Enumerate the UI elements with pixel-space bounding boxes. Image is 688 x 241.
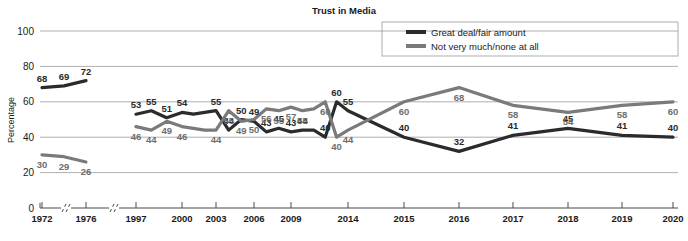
data-label-1-2007: 56: [261, 113, 272, 124]
data-label-0-1974: 69: [59, 71, 70, 82]
x-tick-label-1976: 1976: [75, 213, 96, 224]
data-label-1-2015: 60: [399, 106, 410, 117]
x-tick-label-2014: 2014: [337, 213, 359, 224]
data-label-1-1997: 46: [131, 131, 142, 142]
data-label-0-2012: 40: [320, 122, 331, 133]
x-tick-label-2018: 2018: [557, 213, 578, 224]
x-tick-label-2017: 2017: [502, 213, 523, 224]
data-label-1-2003: 44: [211, 134, 222, 145]
data-label-0-2006: 49: [249, 106, 260, 117]
data-label-1-1999: 49: [161, 125, 172, 136]
data-label-1-2020: 60: [668, 106, 679, 117]
y-tick-label-100: 100: [17, 26, 34, 37]
y-axis-label: Percentage: [6, 97, 16, 143]
data-label-0-2014: 55: [343, 96, 354, 107]
data-label-1-2004: 55: [223, 115, 234, 126]
data-label-1-2008: 55: [273, 115, 284, 126]
x-tick-label-2000: 2000: [171, 213, 192, 224]
data-label-1-2006: 50: [249, 124, 260, 135]
data-label-1-1998: 44: [146, 134, 157, 145]
x-tick-label-2006: 2006: [243, 213, 264, 224]
data-label-0-1999: 51: [161, 103, 172, 114]
x-tick-label-2020: 2020: [662, 213, 683, 224]
data-label-1-2000: 46: [177, 131, 188, 142]
data-label-1-2012: 60: [320, 106, 331, 117]
data-label-0-2019: 41: [617, 120, 628, 131]
data-label-0-2013: 60: [331, 87, 342, 98]
data-label-0-2016: 32: [454, 136, 465, 147]
data-label-1-2019: 58: [617, 109, 628, 120]
data-label-1-1976: 26: [81, 166, 92, 177]
y-tick-label-0: 0: [28, 203, 34, 214]
data-label-0-1976: 72: [81, 66, 92, 77]
y-tick-label-60: 60: [23, 96, 35, 107]
x-tick-label-2016: 2016: [448, 213, 469, 224]
data-label-1-2009: 57: [286, 111, 297, 122]
data-label-1-2010: 55: [297, 115, 308, 126]
chart-container: Trust in Media 020406080100 Percentage 1…: [0, 0, 688, 241]
legend-label-1: Not very much/none at all: [431, 41, 539, 52]
data-label-0-1972: 68: [37, 73, 48, 84]
x-tick-label-2009: 2009: [280, 213, 301, 224]
data-label-1-2016: 68: [454, 92, 465, 103]
data-label-0-2017: 41: [508, 120, 519, 131]
x-tick-label-2003: 2003: [205, 213, 226, 224]
data-label-1-2018: 54: [563, 116, 574, 127]
trust-in-media-line-chart: Trust in Media 020406080100 Percentage 1…: [0, 0, 688, 241]
data-label-1-1974: 29: [59, 161, 70, 172]
chart-background: [0, 0, 688, 241]
y-tick-label-40: 40: [23, 132, 35, 143]
data-label-1-2013: 40: [331, 141, 342, 152]
y-tick-label-80: 80: [23, 61, 35, 72]
legend-label-0: Great deal/fair amount: [431, 27, 526, 38]
data-label-0-2015: 40: [399, 122, 410, 133]
data-label-0-2003: 55: [211, 96, 222, 107]
chart-title: Trust in Media: [312, 5, 377, 16]
data-label-1-2005: 49: [236, 125, 247, 136]
data-label-1-1972: 30: [37, 159, 48, 170]
data-label-1-2017: 58: [508, 109, 519, 120]
data-label-0-2000: 54: [177, 97, 188, 108]
data-label-1-2014: 44: [343, 134, 354, 145]
x-tick-label-1972: 1972: [31, 213, 52, 224]
x-tick-label-1997: 1997: [125, 213, 146, 224]
x-tick-label-2015: 2015: [393, 213, 415, 224]
data-label-0-1997: 53: [131, 99, 142, 110]
y-tick-label-20: 20: [23, 167, 35, 178]
data-label-0-2005: 50: [236, 105, 247, 116]
x-tick-label-2019: 2019: [611, 213, 632, 224]
data-label-0-1998: 55: [146, 96, 157, 107]
data-label-0-2020: 40: [668, 122, 679, 133]
